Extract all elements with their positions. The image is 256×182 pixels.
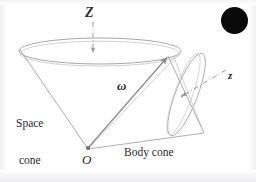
fixed-axis-Z-label: Z [85,5,94,20]
space-cone-label-line2: cone [16,154,43,166]
omega-vector-line [86,58,167,150]
space-cone-label-line1: Space [16,117,43,129]
body-cone-base-ellipse [160,49,212,139]
body-axis-z-line [181,70,226,97]
figure-container: Z z ω O Space cone Body cone [0,0,256,182]
space-cone-label: Space cone [16,92,43,182]
body-axis-z-label: z [228,70,232,82]
angular-velocity-omega-label: ω [117,79,126,93]
origin-label: O [82,153,91,167]
space-cone-rim [19,38,181,66]
body-cone-label: Body cone [124,146,174,158]
filled-circle-marker-icon [221,7,248,34]
